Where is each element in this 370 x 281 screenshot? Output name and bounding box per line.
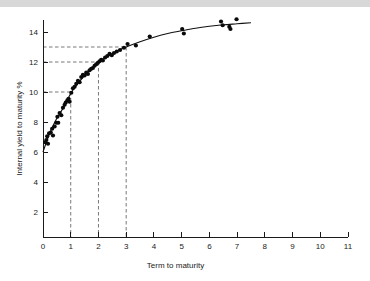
x-tick-label-5: 5 [179,242,184,251]
x-tick-label-6: 6 [207,242,212,251]
y-axis-title: Internal yield to maturity % [15,81,24,175]
data-point [148,34,152,38]
x-tick-label-3: 3 [124,242,129,251]
x-tick-label-2: 2 [96,242,101,251]
data-point [182,31,186,35]
y-tick-label-10: 10 [29,88,38,97]
data-point [53,124,57,128]
x-tick-label-1: 1 [69,242,74,251]
data-point [125,42,129,46]
x-tick-label-0: 0 [41,242,46,251]
data-point [180,27,184,31]
x-tick-label-10: 10 [316,242,325,251]
data-point [221,23,225,27]
data-point [234,17,238,21]
x-axis-title: Term to maturity [147,261,204,270]
data-point [134,43,138,47]
data-point [228,27,232,31]
y-tick-label-12: 12 [29,58,38,67]
data-point [59,113,63,117]
x-tick-label-8: 8 [263,242,268,251]
y-tick-label-8: 8 [34,118,39,127]
scatter-points [43,17,239,146]
y-tick-label-4: 4 [34,178,39,187]
data-point [219,19,223,23]
axis-tick-labels: 246810121401234567891011 [29,28,353,251]
data-point [122,46,126,50]
y-tick-label-2: 2 [34,208,39,217]
x-tick-label-4: 4 [152,242,157,251]
x-tick-label-7: 7 [235,242,240,251]
x-tick-label-11: 11 [344,242,353,251]
data-point [86,72,90,76]
y-tick-label-14: 14 [29,28,38,37]
x-tick-label-9: 9 [290,242,295,251]
data-point [118,48,122,52]
data-point [69,91,73,95]
data-point [51,133,55,137]
data-point [46,142,50,146]
data-point [44,138,48,142]
data-point [55,115,59,119]
y-tick-label-6: 6 [34,148,39,157]
chart-svg: 246810121401234567891011 Term to maturit… [0,0,370,281]
data-point [78,80,82,84]
data-point [56,121,60,125]
axis-ticks [43,32,348,237]
data-point [68,100,72,104]
yield-curve-chart: 246810121401234567891011 Term to maturit… [0,0,370,281]
chart-axes [43,20,348,237]
